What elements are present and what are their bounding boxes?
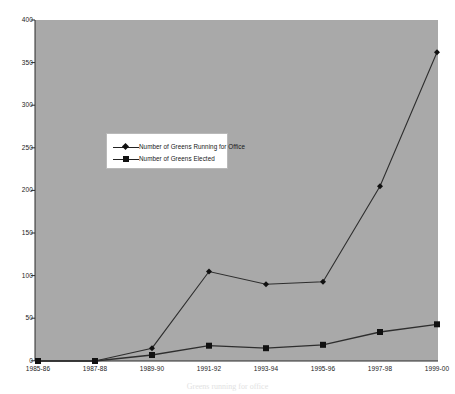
- legend-label: Number of Greens Running for Office: [139, 144, 245, 150]
- legend-label: Number of Greens Elected: [139, 156, 215, 162]
- y-tick-label: 0: [3, 358, 33, 365]
- y-axis: 400 350 300 250 200 150 100 50 0: [0, 0, 33, 394]
- x-tick-label: 1991-92: [197, 366, 222, 373]
- x-tick-label: 1989-90: [140, 366, 165, 373]
- y-tick-label: 250: [3, 145, 33, 152]
- x-tick-label: 1985-86: [26, 366, 51, 373]
- chart-container: 400 350 300 250 200 150 100 50 0: [0, 0, 455, 394]
- x-tick-label: 1997-98: [368, 366, 393, 373]
- y-tick-label: 100: [3, 273, 33, 280]
- chart-legend: Number of Greens Running for Office Numb…: [106, 133, 228, 169]
- legend-item-running-for-office: Number of Greens Running for Office: [113, 142, 245, 152]
- y-tick-label: 150: [3, 230, 33, 237]
- diamond-marker-icon: [113, 143, 139, 152]
- x-tick-label: 1987-88: [83, 366, 108, 373]
- y-tick-label: 200: [3, 187, 33, 194]
- x-tick-label: 1999-00: [425, 366, 450, 373]
- y-tick-label: 50: [3, 315, 33, 322]
- y-tick-label: 300: [3, 102, 33, 109]
- square-marker-icon: [113, 155, 139, 164]
- y-tick-label: 350: [3, 60, 33, 67]
- y-tick-label: 400: [3, 17, 33, 24]
- x-tick-label: 1993-94: [254, 366, 279, 373]
- legend-item-elected: Number of Greens Elected: [113, 154, 215, 164]
- chart-caption: Greens running for office: [0, 383, 455, 391]
- plot-area: [35, 20, 438, 361]
- x-tick-label: 1995-96: [311, 366, 336, 373]
